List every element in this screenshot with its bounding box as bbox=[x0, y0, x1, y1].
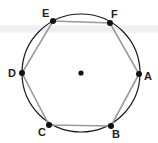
center-point bbox=[78, 70, 83, 75]
vertex-point-e bbox=[50, 18, 56, 24]
vertex-label-f: F bbox=[111, 8, 118, 20]
vertex-label-a: A bbox=[144, 70, 152, 82]
vertex-label-d: D bbox=[8, 67, 16, 79]
vertex-point-d bbox=[19, 70, 25, 76]
hexagon-diagram: ABCDEF bbox=[0, 0, 158, 143]
vertex-point-c bbox=[46, 122, 52, 128]
vertex-label-b: B bbox=[112, 128, 120, 140]
vertex-point-a bbox=[136, 71, 142, 77]
vertex-label-c: C bbox=[38, 126, 46, 138]
vertex-label-e: E bbox=[42, 7, 49, 19]
vertex-point-f bbox=[107, 20, 113, 26]
